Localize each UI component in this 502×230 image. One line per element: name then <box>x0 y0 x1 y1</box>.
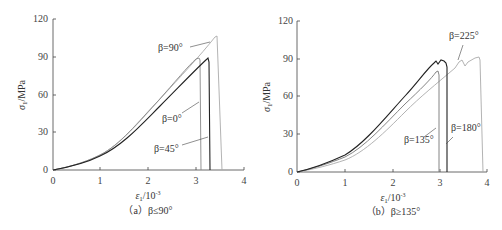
y-tick-label: 90 <box>283 53 293 64</box>
label-beta-90: β=90° <box>158 42 183 53</box>
y-tick-label: 30 <box>283 128 293 139</box>
leader-line <box>458 45 463 60</box>
y-axis-label: σ1/MPa <box>261 81 274 112</box>
x-axis-label: ε1/10-3 <box>135 190 160 203</box>
x-tick-label: 1 <box>343 177 348 188</box>
y-tick-label: 30 <box>38 126 48 137</box>
y-tick-label: 120 <box>33 13 48 24</box>
series-beta-135 <box>297 71 439 172</box>
label-beta-0: β=0° <box>162 113 182 124</box>
x-tick-label: 3 <box>438 177 443 188</box>
x-tick-label: 4 <box>242 175 247 186</box>
caption-b: （b）β≥135° <box>366 206 421 217</box>
figure: 0 30 60 90 120 0 1 2 3 4 σ1/MPa ε1/10-3 … <box>0 0 502 230</box>
y-tick-label: 60 <box>283 90 293 101</box>
y-axis-label: σ1/MPa <box>16 79 29 110</box>
x-ticks <box>345 169 487 172</box>
series-beta-45 <box>53 58 210 170</box>
series-beta-90 <box>53 36 222 170</box>
chart-b: 0 30 60 90 120 0 1 2 3 4 σ1/MPa ε1/10-3 … <box>261 15 490 217</box>
label-beta-180: β=180° <box>451 122 481 133</box>
y-tick-label: 0 <box>43 164 48 175</box>
x-tick-label: 0 <box>295 177 300 188</box>
leader-line <box>182 137 208 145</box>
y-tick-label: 120 <box>278 15 293 26</box>
label-beta-135: β=135° <box>404 134 434 145</box>
x-tick-label: 4 <box>485 177 490 188</box>
y-tick-label: 60 <box>38 89 48 100</box>
chart-a: 0 30 60 90 120 0 1 2 3 4 σ1/MPa ε1/10-3 … <box>16 13 247 216</box>
caption-a: （a）β≤90° <box>123 205 172 216</box>
y-tick-label: 90 <box>38 51 48 62</box>
y-tick-label: 0 <box>288 166 293 177</box>
y-ticks <box>53 19 56 170</box>
x-tick-label: 1 <box>98 175 103 186</box>
x-tick-label: 2 <box>146 175 151 186</box>
x-axis-label: ε1/10-3 <box>380 192 405 205</box>
series-beta-180 <box>297 60 447 172</box>
label-beta-225: β=225° <box>449 30 479 41</box>
series-beta-225 <box>297 57 483 172</box>
label-beta-45: β=45° <box>154 143 179 154</box>
y-ticks <box>297 21 300 172</box>
x-tick-label: 3 <box>194 175 199 186</box>
x-tick-label: 0 <box>51 175 56 186</box>
x-tick-label: 2 <box>391 177 396 188</box>
leader-line <box>182 102 199 113</box>
